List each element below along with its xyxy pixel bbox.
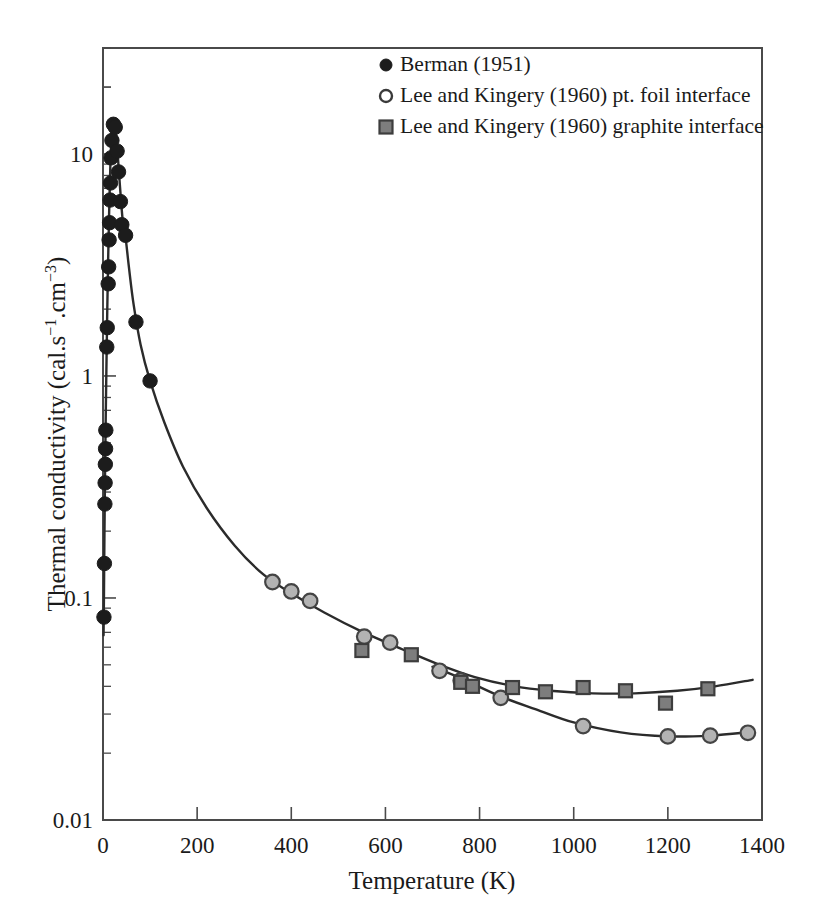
data-point-square <box>619 684 632 697</box>
data-point-open-circle <box>661 729 676 744</box>
legend-label: Lee and Kingery (1960) pt. foil interfac… <box>400 83 750 107</box>
data-point-open-circle <box>383 635 398 650</box>
data-point-open-circle <box>265 575 280 590</box>
data-point-square <box>539 685 552 698</box>
data-point-filled-circle <box>98 457 112 471</box>
data-point-open-circle <box>432 663 447 678</box>
data-point-square <box>577 681 590 694</box>
legend-filled-circle-icon <box>380 59 392 71</box>
data-point-square <box>355 644 368 657</box>
y-axis-title: Thermal conductivity (cal.s−1.cm−3) <box>42 257 71 612</box>
data-point-filled-circle <box>101 260 115 274</box>
data-point-open-circle <box>576 719 591 734</box>
data-point-open-circle <box>741 726 756 741</box>
data-point-square <box>701 682 714 695</box>
x-tick-label: 800 <box>462 833 497 858</box>
data-point-open-circle <box>357 629 372 644</box>
data-point-filled-circle <box>97 556 111 570</box>
legend-item-0: Berman (1951) <box>380 52 531 76</box>
data-point-filled-circle <box>113 194 127 208</box>
y-tick-label: 10 <box>70 142 93 167</box>
data-point-filled-circle <box>102 233 116 247</box>
data-point-square <box>659 697 672 710</box>
chart-canvas: 0.010.1110 0200400600800100012001400 Tem… <box>0 0 817 918</box>
data-point-filled-circle <box>143 374 157 388</box>
data-point-filled-circle <box>98 476 112 490</box>
data-point-filled-circle <box>100 340 114 354</box>
x-tick-label: 0 <box>97 833 109 858</box>
x-tick-label: 400 <box>274 833 309 858</box>
data-point-square <box>506 681 519 694</box>
data-point-filled-circle <box>129 315 143 329</box>
y-axis-title-text: Thermal conductivity (cal.s−1.cm−3) <box>42 257 71 612</box>
legend-label: Lee and Kingery (1960) graphite interfac… <box>400 114 764 138</box>
legend-open-circle-icon <box>380 90 392 102</box>
data-point-filled-circle <box>118 228 132 242</box>
x-axis-title: Temperature (K) <box>349 867 516 895</box>
y-tick-label: 1 <box>82 364 94 389</box>
data-point-filled-circle <box>110 144 124 158</box>
x-tick-label: 1200 <box>645 833 691 858</box>
x-tick-label: 1000 <box>551 833 597 858</box>
data-point-open-circle <box>303 594 318 609</box>
data-point-filled-circle <box>100 320 114 334</box>
data-point-filled-circle <box>111 165 125 179</box>
data-point-filled-circle <box>98 497 112 511</box>
legend-item-1: Lee and Kingery (1960) pt. foil interfac… <box>380 83 750 107</box>
legend-item-2: Lee and Kingery (1960) graphite interfac… <box>380 114 764 138</box>
data-point-filled-circle <box>101 277 115 291</box>
y-tick-label: 0.01 <box>53 808 93 833</box>
x-tick-label: 600 <box>368 833 403 858</box>
data-point-open-circle <box>703 728 718 743</box>
data-point-filled-circle <box>97 610 111 624</box>
legend-label: Berman (1951) <box>400 52 531 76</box>
data-point-square <box>405 648 418 661</box>
data-point-filled-circle <box>98 442 112 456</box>
data-point-filled-circle <box>99 423 113 437</box>
data-point-filled-circle <box>108 120 122 134</box>
thermal-conductivity-figure: 0.010.1110 0200400600800100012001400 Tem… <box>0 0 817 918</box>
x-tick-label: 1400 <box>739 833 785 858</box>
data-point-square <box>466 680 479 693</box>
x-tick-label: 200 <box>180 833 215 858</box>
data-point-open-circle <box>284 584 299 599</box>
legend-square-icon <box>380 121 393 134</box>
